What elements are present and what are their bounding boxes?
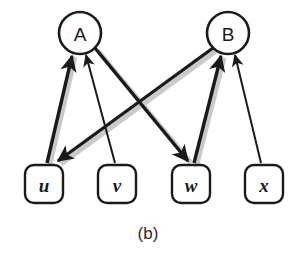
- node-label-w: w: [185, 175, 198, 196]
- node-box-x[interactable]: x: [245, 165, 283, 203]
- node-label-u: u: [39, 175, 50, 196]
- edge-B-to-u: [58, 48, 213, 161]
- node-label-B: B: [222, 24, 235, 45]
- node-label-x: x: [258, 175, 269, 196]
- node-circle-B[interactable]: B: [207, 12, 249, 54]
- edge-v-to-A: [86, 55, 115, 163]
- edge-shadow-u-to-A: [50, 57, 75, 164]
- edge-shadow-B-to-u: [61, 51, 216, 164]
- edges-layer: [47, 48, 261, 163]
- figure-caption: (b): [138, 224, 159, 243]
- edge-u-to-A: [47, 56, 72, 163]
- node-box-w[interactable]: w: [172, 165, 210, 203]
- node-circle-A[interactable]: A: [59, 12, 101, 54]
- edge-x-to-B: [235, 55, 261, 163]
- node-label-A: A: [74, 24, 87, 45]
- node-box-u[interactable]: u: [25, 165, 63, 203]
- graph-canvas: ABuvwx (b): [0, 0, 296, 260]
- graph-figure: ABuvwx (b): [0, 0, 296, 260]
- edge-shadow-w-to-B: [197, 58, 224, 164]
- edge-w-to-B: [194, 56, 221, 163]
- node-label-v: v: [113, 175, 122, 196]
- node-box-v[interactable]: v: [98, 165, 136, 203]
